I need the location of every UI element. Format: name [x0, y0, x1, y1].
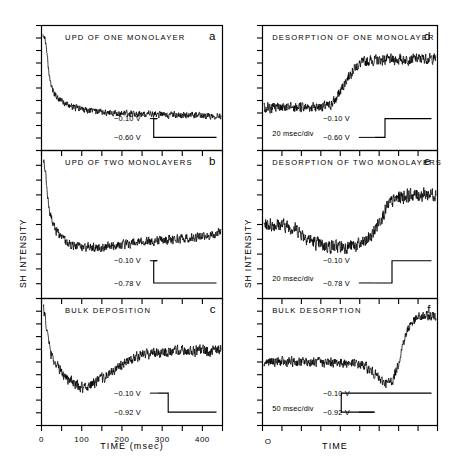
panel-title-a: UPD OF ONE MONOLAYER [65, 33, 185, 42]
sh-trace-b [43, 160, 221, 252]
panel-b: −0.10 V−0.78 VUPD OF TWO MONOLAYERSb [36, 151, 223, 305]
sh-trace-c [43, 305, 221, 393]
timebase-label-d: 20 msec/div [272, 129, 314, 138]
panel-letter-a: a [209, 30, 216, 42]
x-tick-label: 400 [195, 435, 210, 444]
sh-trace-f [264, 311, 436, 388]
timebase-label-f: 50 msec/div [272, 404, 314, 413]
x-axis-label-right: TIME [300, 441, 370, 451]
sh-trace-a [43, 35, 221, 120]
panel-e: −0.10 V−0.78 V20 msec/divDESORPTION OF T… [257, 151, 442, 305]
voltage-high-label-d: −0.10 V [323, 114, 350, 123]
panel-title-d: DESORPTION OF ONE MONOLAYER [272, 33, 435, 42]
voltage-high-label-a: −0.10 V [114, 114, 141, 123]
potential-step-waveform-c [157, 393, 216, 412]
panel-title-f: BULK DESORPTION [272, 306, 361, 315]
x-axis-label-left: TIME (msec) [77, 441, 187, 451]
voltage-low-label-b: −0.78 V [114, 279, 141, 288]
potential-step-waveform-a [154, 119, 217, 138]
voltage-low-label-d: −0.60 V [323, 133, 350, 142]
panel-letter-c: c [210, 303, 216, 315]
panel-letter-d: d [424, 30, 430, 42]
y-axis-label-right: SH INTENSITY [243, 219, 253, 288]
potential-step-waveform-f [341, 393, 431, 412]
voltage-high-label-b: −0.10 V [114, 256, 141, 265]
panel-d: −0.10 V−0.60 V20 msec/divDESORPTION OF O… [257, 26, 438, 157]
voltage-high-label-e: −0.10 V [323, 256, 350, 265]
y-axis-label-left: SH INTENSITY [18, 219, 28, 288]
potential-step-waveform-b [154, 261, 217, 283]
panel-c: −0.10 V−0.92 VBULK DEPOSITIONc [36, 299, 223, 432]
potential-step-waveform-d [375, 119, 432, 138]
panel-letter-e: e [424, 155, 430, 167]
voltage-low-label-e: −0.78 V [323, 279, 350, 288]
panel-letter-b: b [209, 155, 215, 167]
panel-title-c: BULK DEPOSITION [65, 306, 151, 315]
voltage-high-label-f: −0.10 V [323, 389, 350, 398]
timebase-label-e: 20 msec/div [272, 274, 314, 283]
voltage-low-label-f: −0.92 V [323, 408, 350, 417]
panel-f: −0.10 V−0.92 V50 msec/divBULK DESORPTION… [257, 299, 438, 432]
figure-canvas: −0.10 V−0.60 VUPD OF ONE MONOLAYERa−0.10… [0, 0, 453, 458]
panel-a: −0.10 V−0.60 VUPD OF ONE MONOLAYERa [36, 26, 223, 157]
potential-step-waveform-e [375, 261, 432, 283]
x-tick-label: 0 [39, 435, 44, 444]
panel-frame-b [42, 151, 223, 299]
sh-trace-d [264, 53, 436, 113]
voltage-low-label-c: −0.92 V [114, 408, 141, 417]
voltage-high-label-c: −0.10 V [114, 389, 141, 398]
x-origin-label-right: O [262, 437, 274, 446]
panel-title-e: DESORPTION OF TWO MONOLAYERS [272, 158, 442, 167]
voltage-low-label-a: −0.60 V [114, 133, 141, 142]
sh-trace-e [264, 187, 436, 253]
panel-title-b: UPD OF TWO MONOLAYERS [65, 158, 193, 167]
panel-frame-a [42, 26, 223, 151]
